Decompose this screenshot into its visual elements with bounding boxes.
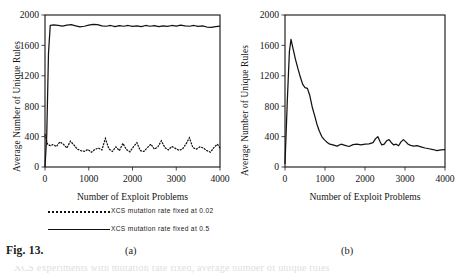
legend-item: XCS mutation rate fixed at 0.02 xyxy=(0,203,232,218)
legend-solid-line-swatch xyxy=(48,224,110,234)
chart-panel-b: Average Number of Unique Rules 040080012… xyxy=(232,0,459,205)
x-axis-tick-label: 3000 xyxy=(167,173,186,184)
figure-label: Fig. 13. xyxy=(6,244,44,256)
x-axis-tick-label: 3000 xyxy=(395,173,414,184)
clipped-footer-line: XCS experiments with mutation rate fixed… xyxy=(14,266,459,273)
chart-a-svg: 040080012001600200001000200030004000Numb… xyxy=(16,6,228,202)
y-axis-tick-label: 800 xyxy=(265,101,280,112)
x-axis-tick-label: 4000 xyxy=(210,173,229,184)
x-axis-tick-label: 2000 xyxy=(355,173,374,184)
x-axis-tick-label: 1000 xyxy=(315,173,334,184)
subfigure-label-a: (a) xyxy=(125,245,137,256)
x-axis-tick-label: 4000 xyxy=(435,173,454,184)
y-axis-tick-label: 0 xyxy=(34,161,39,172)
y-axis-tick-label: 1200 xyxy=(260,70,279,81)
chart-a-plot: 040080012001600200001000200030004000Numb… xyxy=(16,6,228,202)
x-axis-tick-label: 0 xyxy=(43,173,48,184)
chart-b-plot: 040080012001600200001000200030004000Numb… xyxy=(252,6,452,202)
legend-dotted-line-swatch xyxy=(48,206,110,216)
y-axis-tick-label: 0 xyxy=(274,161,279,172)
y-axis-tick-label: 800 xyxy=(25,101,40,112)
chart-b-svg: 040080012001600200001000200030004000Numb… xyxy=(252,6,452,202)
figure-page: Average Number of Unique Rules 040080012… xyxy=(0,0,459,273)
chart-b-y-axis-title: Average Number of Unique Rules xyxy=(240,45,250,176)
clipped-footer-text: XCS experiments with mutation rate fixed… xyxy=(0,266,459,273)
plot-frame xyxy=(45,15,220,167)
legend-item-label: XCS mutation rate fixed at 0.02 xyxy=(111,207,213,214)
x-axis-title: Number of Exploit Problems xyxy=(309,191,420,202)
legend-item-label: XCS mutation rate fixed at 0.5 xyxy=(111,225,209,232)
chart-panel-a: Average Number of Unique Rules 040080012… xyxy=(0,0,232,205)
figure-caption: Fig. 13. (a) (b) xyxy=(0,243,459,261)
y-axis-tick-label: 2000 xyxy=(260,9,279,20)
y-axis-tick-label: 1600 xyxy=(20,40,39,51)
x-axis-tick-label: 1000 xyxy=(79,173,98,184)
chart-a-legend: XCS mutation rate fixed at 0.02 XCS muta… xyxy=(0,203,232,243)
y-axis-tick-label: 1600 xyxy=(260,40,279,51)
y-axis-tick-label: 1200 xyxy=(20,70,39,81)
legend-item: XCS mutation rate fixed at 0.5 xyxy=(0,221,232,236)
subfigure-label-b: (b) xyxy=(341,245,353,256)
y-axis-tick-label: 2000 xyxy=(20,9,39,20)
y-axis-tick-label: 400 xyxy=(265,131,280,142)
y-axis-tick-label: 400 xyxy=(25,131,40,142)
x-axis-tick-label: 0 xyxy=(283,173,288,184)
x-axis-title: Number of Exploit Problems xyxy=(77,191,188,202)
x-axis-tick-label: 2000 xyxy=(123,173,142,184)
